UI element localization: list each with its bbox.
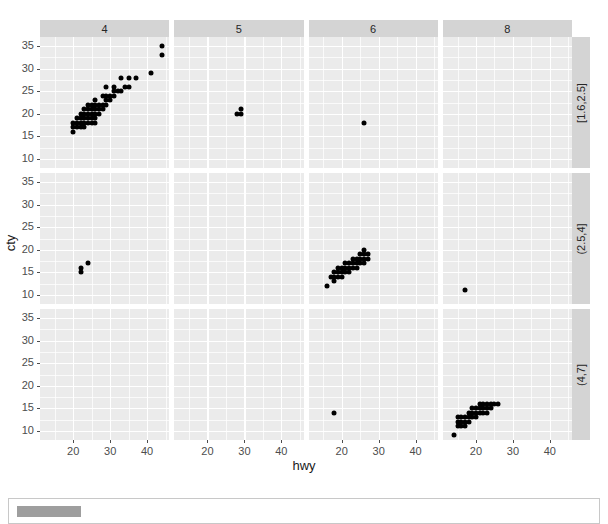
gridline-major-h xyxy=(40,431,169,432)
gridline-major-v xyxy=(281,309,282,440)
gridline-major-h xyxy=(443,114,572,115)
facet-panel-4-2 xyxy=(40,309,169,440)
gridline-major-h xyxy=(309,272,438,273)
gridline-major-v xyxy=(513,173,514,304)
data-point xyxy=(332,279,337,284)
data-point xyxy=(365,256,370,261)
x-tick-label: 30 xyxy=(232,445,256,457)
data-point xyxy=(119,75,124,80)
gridline-minor-h xyxy=(443,103,572,104)
facet-strip-right-1: (2.5,4] xyxy=(572,173,590,304)
y-tick-label: 10 xyxy=(4,152,34,164)
facet-panel-4-1 xyxy=(40,173,169,304)
facet-panel-5-0 xyxy=(174,37,303,168)
y-tick-label: 25 xyxy=(4,220,34,232)
x-tick-mark xyxy=(379,440,380,443)
y-tick-label: 30 xyxy=(4,62,34,74)
x-axis-title: hwy xyxy=(0,458,608,473)
gridline-major-h xyxy=(443,159,572,160)
data-point xyxy=(358,261,363,266)
gridline-major-h xyxy=(443,295,572,296)
gridline-minor-h xyxy=(174,352,303,353)
y-tick-label: 35 xyxy=(4,311,34,323)
x-tick-mark xyxy=(476,440,477,443)
gridline-major-v xyxy=(281,37,282,168)
gridline-major-h xyxy=(40,114,169,115)
gridline-major-h xyxy=(443,91,572,92)
gridline-major-h xyxy=(40,408,169,409)
data-point xyxy=(238,111,243,116)
gridline-major-v xyxy=(207,37,208,168)
gridline-major-v xyxy=(147,37,148,168)
x-tick-label: 40 xyxy=(538,445,562,457)
gridline-major-v xyxy=(207,309,208,440)
gridline-major-v xyxy=(416,37,417,168)
data-point xyxy=(100,93,105,98)
gridline-major-h xyxy=(443,431,572,432)
data-point xyxy=(159,53,164,58)
gridline-minor-h xyxy=(174,148,303,149)
x-tick-label: 20 xyxy=(195,445,219,457)
gridline-major-v xyxy=(513,309,514,440)
gridline-major-v xyxy=(379,37,380,168)
gridline-minor-h xyxy=(40,329,169,330)
gridline-major-h xyxy=(309,182,438,183)
gridline-major-h xyxy=(174,136,303,137)
gridline-minor-h xyxy=(174,193,303,194)
gridline-minor-h xyxy=(40,284,169,285)
data-point xyxy=(134,75,139,80)
x-tick-mark xyxy=(147,440,148,443)
gridline-major-h xyxy=(40,205,169,206)
gridline-major-v xyxy=(416,173,417,304)
data-point xyxy=(159,44,164,49)
gridline-minor-h xyxy=(174,420,303,421)
gridline-major-h xyxy=(309,114,438,115)
y-tick-mark xyxy=(37,408,40,409)
y-tick-label: 15 xyxy=(4,401,34,413)
data-point xyxy=(122,84,127,89)
gridline-major-h xyxy=(443,363,572,364)
gridline-major-h xyxy=(443,227,572,228)
gridline-major-h xyxy=(443,341,572,342)
gridline-major-h xyxy=(174,182,303,183)
data-point xyxy=(86,261,91,266)
gridline-minor-h xyxy=(309,148,438,149)
y-tick-label: 30 xyxy=(4,198,34,210)
gridline-minor-h xyxy=(40,261,169,262)
facet-strip-right-label: [1.6,2.5] xyxy=(575,83,587,123)
caption-chip xyxy=(17,506,81,517)
data-point xyxy=(111,84,116,89)
y-tick-mark xyxy=(37,159,40,160)
gridline-minor-h xyxy=(443,375,572,376)
gridline-major-h xyxy=(309,46,438,47)
data-point xyxy=(343,270,348,275)
gridline-major-h xyxy=(40,363,169,364)
gridline-major-h xyxy=(174,408,303,409)
x-tick-label: 20 xyxy=(330,445,354,457)
gridline-minor-h xyxy=(174,329,303,330)
caption-bar[interactable] xyxy=(8,498,600,524)
gridline-major-h xyxy=(40,386,169,387)
gridline-minor-h xyxy=(174,261,303,262)
y-tick-label: 25 xyxy=(4,356,34,368)
x-tick-mark xyxy=(513,440,514,443)
data-point xyxy=(473,415,478,420)
facet-strip-right-label: (2.5,4] xyxy=(575,223,587,254)
y-tick-label: 15 xyxy=(4,129,34,141)
gridline-major-h xyxy=(174,272,303,273)
gridline-minor-h xyxy=(443,216,572,217)
data-point xyxy=(74,116,79,121)
gridline-major-h xyxy=(174,69,303,70)
gridline-major-h xyxy=(40,69,169,70)
y-tick-label: 10 xyxy=(4,424,34,436)
gridline-major-h xyxy=(309,227,438,228)
gridline-major-h xyxy=(174,363,303,364)
gridline-major-v xyxy=(416,309,417,440)
gridline-major-h xyxy=(40,136,169,137)
data-point xyxy=(78,270,83,275)
gridline-major-h xyxy=(309,318,438,319)
gridline-minor-h xyxy=(40,420,169,421)
data-point xyxy=(477,401,482,406)
data-point xyxy=(361,120,366,125)
gridline-major-v xyxy=(379,173,380,304)
